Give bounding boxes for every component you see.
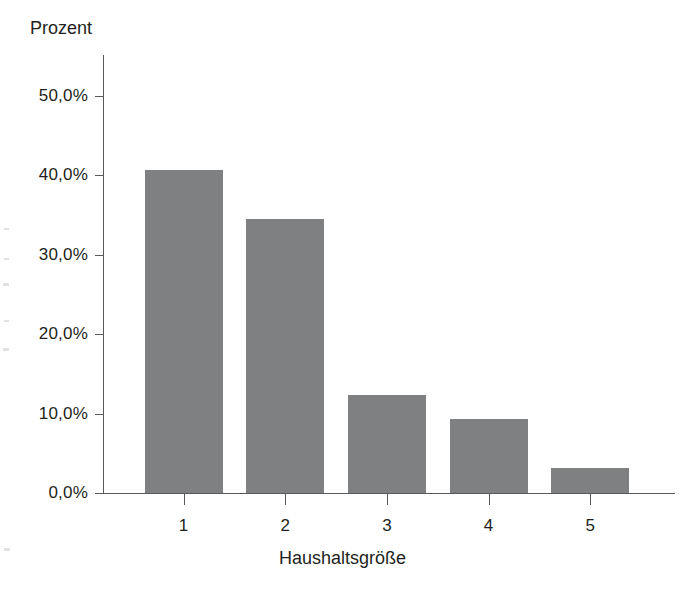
- y-tick-mark: [95, 96, 103, 97]
- bar: [348, 395, 426, 493]
- x-tick-label: 1: [164, 516, 204, 536]
- y-axis-title: Prozent: [30, 18, 92, 39]
- scan-artifact: [4, 228, 9, 230]
- scan-artifact: [3, 283, 9, 286]
- y-tick-label-wrap: 40,0%: [0, 165, 88, 185]
- y-tick-label: 20,0%: [39, 324, 88, 344]
- scan-artifact: [4, 320, 9, 322]
- bar-chart: Prozent 0,0%10,0%20,0%30,0%40,0%50,0% 12…: [0, 0, 685, 596]
- scan-artifact: [4, 548, 10, 551]
- y-tick-label-wrap: 30,0%: [0, 245, 88, 265]
- x-tick-label: 5: [570, 516, 610, 536]
- scan-artifact: [3, 348, 9, 351]
- y-tick-mark: [95, 255, 103, 256]
- bar: [450, 419, 528, 493]
- y-tick-label: 40,0%: [39, 165, 88, 185]
- x-tick-mark: [285, 494, 286, 505]
- x-tick-mark: [590, 494, 591, 505]
- y-axis-line: [103, 55, 104, 494]
- bar: [145, 170, 223, 493]
- y-tick-label-wrap: 10,0%: [0, 404, 88, 424]
- y-tick-label-wrap: 50,0%: [0, 86, 88, 106]
- y-tick-label: 30,0%: [39, 245, 88, 265]
- x-axis-title: Haushaltsgröße: [0, 548, 685, 569]
- y-tick-mark: [95, 334, 103, 335]
- x-tick-label: 4: [469, 516, 509, 536]
- x-tick-mark: [184, 494, 185, 505]
- y-tick-mark: [95, 175, 103, 176]
- scan-artifact: [4, 258, 9, 260]
- y-tick-label: 50,0%: [39, 86, 88, 106]
- x-tick-mark: [489, 494, 490, 505]
- x-tick-label: 2: [265, 516, 305, 536]
- y-tick-label-wrap: 0,0%: [0, 483, 88, 503]
- y-tick-mark: [95, 493, 103, 494]
- y-tick-mark: [95, 414, 103, 415]
- x-tick-mark: [387, 494, 388, 505]
- y-tick-label-wrap: 20,0%: [0, 324, 88, 344]
- bar: [551, 468, 629, 493]
- x-axis-line: [103, 493, 675, 494]
- y-tick-label: 10,0%: [39, 404, 88, 424]
- x-tick-label: 3: [367, 516, 407, 536]
- y-tick-label: 0,0%: [48, 483, 88, 503]
- bar: [246, 219, 324, 493]
